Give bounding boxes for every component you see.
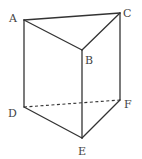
vertex-label-a: A	[8, 12, 18, 25]
edge-df-hidden	[24, 100, 120, 107]
edge-bc	[82, 13, 120, 50]
vertex-label-e: E	[78, 145, 86, 158]
edge-de	[24, 107, 82, 138]
vertex-label-d: D	[8, 107, 17, 120]
vertex-label-b: B	[85, 54, 93, 67]
edge-ca	[24, 13, 120, 20]
edge-ab	[24, 20, 82, 50]
vertex-label-c: C	[123, 7, 131, 20]
edge-ef	[82, 100, 120, 138]
prism-edges	[24, 13, 120, 138]
vertex-label-f: F	[124, 98, 132, 111]
vertex-labels: A B C D E F	[8, 7, 132, 158]
prism-diagram: A B C D E F	[0, 0, 142, 159]
